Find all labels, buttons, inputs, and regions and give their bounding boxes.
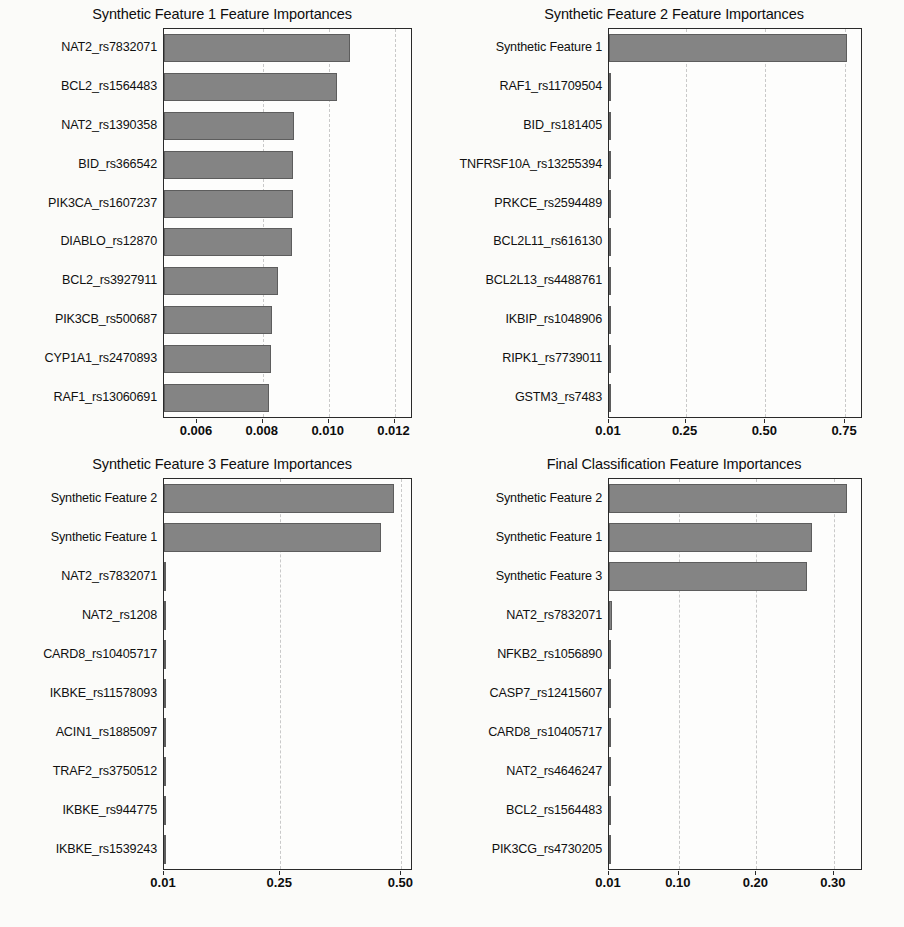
panel-4-title: Final Classification Feature Importances — [452, 456, 896, 472]
panel-2-title: Synthetic Feature 2 Feature Importances — [452, 6, 896, 22]
bar — [609, 190, 611, 218]
panel-3-y-tick-labels: Synthetic Feature 2Synthetic Feature 1NA… — [2, 478, 157, 870]
y-tick-label: ACIN1_rs1885097 — [56, 725, 157, 739]
bar — [609, 267, 611, 295]
bar — [609, 835, 611, 863]
panel-3-plot: Synthetic Feature 2Synthetic Feature 1NA… — [163, 478, 412, 870]
bar — [164, 757, 166, 785]
y-tick-label: PRKCE_rs2594489 — [494, 196, 602, 210]
y-tick-label: NAT2_rs7832071 — [506, 608, 602, 622]
y-tick-label: Synthetic Feature 2 — [496, 491, 602, 505]
gridline — [401, 479, 403, 869]
panel-2-plot: Synthetic Feature 1RAF1_rs11709504BID_rs… — [608, 28, 862, 418]
y-tick-label: IKBKE_rs11578093 — [50, 686, 157, 700]
bar — [609, 306, 611, 334]
x-tick-label: 0.01 — [150, 875, 175, 890]
bar — [609, 601, 612, 629]
bar — [164, 835, 166, 863]
bar — [609, 679, 611, 707]
y-tick-label: NAT2_rs1208 — [82, 608, 157, 622]
y-tick-label: PIK3CB_rs500687 — [55, 312, 157, 326]
subplot-grid: Synthetic Feature 1 Feature Importances … — [0, 0, 904, 927]
panel-1-y-tick-labels: NAT2_rs7832071BCL2_rs1564483NAT2_rs13903… — [2, 28, 157, 418]
y-tick-label: NFKB2_rs1056890 — [497, 647, 602, 661]
bar — [164, 267, 278, 295]
x-tick-label: 0.30 — [820, 875, 845, 890]
y-tick-label: Synthetic Feature 2 — [51, 491, 157, 505]
y-tick-label: Synthetic Feature 1 — [496, 530, 602, 544]
bar — [164, 718, 166, 746]
y-tick-label: NAT2_rs4646247 — [506, 764, 602, 778]
bar — [609, 34, 847, 62]
y-tick-label: IKBKE_rs944775 — [62, 803, 157, 817]
y-tick-label: IKBIP_rs1048906 — [506, 312, 602, 326]
bar — [164, 562, 166, 590]
bar — [164, 640, 166, 668]
bar — [609, 640, 611, 668]
y-tick-label: TRAF2_rs3750512 — [53, 764, 157, 778]
y-tick-label: CARD8_rs10405717 — [488, 725, 602, 739]
y-tick-label: GSTM3_rs7483 — [515, 390, 602, 404]
bar — [164, 523, 381, 551]
y-tick-label: BCL2_rs1564483 — [61, 79, 157, 93]
y-tick-label: PIK3CG_rs4730205 — [492, 842, 602, 856]
bar — [164, 73, 337, 101]
y-tick-label: BCL2_rs1564483 — [506, 803, 602, 817]
bar — [609, 345, 611, 373]
y-tick-label: Synthetic Feature 3 — [496, 569, 602, 583]
y-tick-label: DIABLO_rs12870 — [60, 234, 157, 248]
x-tick-label: 0.01 — [595, 423, 620, 438]
x-tick-label: 0.012 — [377, 423, 410, 438]
panel-4-plot: Synthetic Feature 2Synthetic Feature 1Sy… — [608, 478, 862, 870]
y-tick-label: CASP7_rs12415607 — [490, 686, 602, 700]
y-tick-label: Synthetic Feature 1 — [496, 40, 602, 54]
panel-4-y-tick-labels: Synthetic Feature 2Synthetic Feature 1Sy… — [454, 478, 602, 870]
x-tick-label: 0.010 — [311, 423, 344, 438]
panel-synthetic-feature-3: Synthetic Feature 3 Feature Importances … — [0, 450, 452, 927]
bar — [609, 562, 807, 590]
panel-2-axes — [608, 28, 862, 418]
panel-3-axes — [163, 478, 412, 870]
gridline — [686, 29, 688, 417]
x-tick-label: 0.006 — [180, 423, 213, 438]
y-tick-label: CYP1A1_rs2470893 — [45, 351, 157, 365]
bar — [164, 384, 269, 412]
panel-synthetic-feature-2: Synthetic Feature 2 Feature Importances … — [452, 0, 904, 450]
y-tick-label: BCL2L11_rs616130 — [493, 234, 602, 248]
bar — [164, 679, 166, 707]
bar — [609, 796, 611, 824]
bar — [164, 112, 294, 140]
x-tick-label: 0.01 — [595, 875, 620, 890]
y-tick-label: BID_rs181405 — [523, 118, 602, 132]
y-tick-label: NAT2_rs7832071 — [61, 40, 157, 54]
panel-1-axes — [163, 28, 412, 418]
y-tick-label: TNFRSF10A_rs13255394 — [459, 157, 602, 171]
y-tick-label: BID_rs366542 — [78, 157, 157, 171]
panel-2-y-tick-labels: Synthetic Feature 1RAF1_rs11709504BID_rs… — [454, 28, 602, 418]
bar — [164, 228, 292, 256]
bar — [164, 34, 350, 62]
y-tick-label: Synthetic Feature 1 — [51, 530, 157, 544]
y-tick-label: RAF1_rs11709504 — [499, 79, 602, 93]
bar — [609, 151, 611, 179]
x-tick-label: 0.20 — [743, 875, 768, 890]
bar — [164, 190, 293, 218]
x-tick-label: 0.75 — [831, 423, 856, 438]
panel-synthetic-feature-1: Synthetic Feature 1 Feature Importances … — [0, 0, 452, 450]
bar — [164, 601, 166, 629]
panel-1-plot: NAT2_rs7832071BCL2_rs1564483NAT2_rs13903… — [163, 28, 412, 418]
y-tick-label: RAF1_rs13060691 — [54, 390, 157, 404]
y-tick-label: CARD8_rs10405717 — [43, 647, 157, 661]
panel-3-title: Synthetic Feature 3 Feature Importances — [0, 456, 444, 472]
bar — [609, 384, 611, 412]
y-tick-label: RIPK1_rs7739011 — [502, 351, 602, 365]
gridline — [765, 29, 767, 417]
gridline — [834, 479, 836, 869]
bar — [609, 112, 611, 140]
y-tick-label: BCL2_rs3927911 — [62, 273, 157, 287]
gridline — [395, 29, 397, 417]
gridline — [845, 29, 847, 417]
bar — [164, 345, 271, 373]
x-tick-label: 0.50 — [388, 875, 413, 890]
panel-final-classification: Final Classification Feature Importances… — [452, 450, 904, 927]
